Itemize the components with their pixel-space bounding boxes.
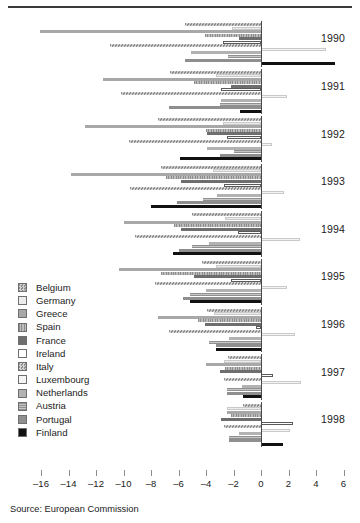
- zero-line-1994: [261, 211, 262, 257]
- bar-italy-1991: [121, 92, 261, 95]
- bar-belgium-1994: [192, 213, 261, 216]
- legend-item-portugal: Portugal: [18, 413, 138, 426]
- zero-line-1996: [261, 307, 262, 353]
- x-tick-label-6: 6: [341, 478, 346, 489]
- legend-swatch-belgium: [18, 283, 27, 292]
- bar-austria-1991: [220, 103, 261, 106]
- bar-netherlands-1993: [217, 194, 261, 197]
- bar-ireland-1990: [223, 41, 262, 44]
- legend-label-belgium: Belgium: [36, 283, 71, 293]
- bar-greece-1990: [40, 30, 261, 33]
- bar-italy-1997: [224, 378, 261, 381]
- legend-label-luxembourg: Luxembourg: [36, 375, 89, 385]
- bar-france-1996: [205, 323, 261, 326]
- bar-belgium-1990: [185, 23, 261, 26]
- bar-belgium-1996: [207, 309, 261, 312]
- legend-swatch-netherlands: [18, 389, 27, 398]
- legend-swatch-germany: [18, 296, 27, 305]
- x-tick-label--4: –4: [201, 478, 212, 489]
- bar-luxembourg-1997: [261, 381, 301, 384]
- legend-item-spain: Spain: [18, 321, 138, 334]
- legend-label-portugal: Portugal: [36, 415, 72, 425]
- bar-germany-1997: [224, 360, 261, 363]
- bar-ireland-1997: [261, 374, 273, 377]
- year-label-1993: 1993: [321, 175, 345, 187]
- bar-france-1994: [181, 228, 261, 231]
- legend-swatch-greece: [18, 309, 27, 318]
- x-tick-label--10: –10: [116, 478, 132, 489]
- legend-item-italy: Italy: [18, 360, 138, 373]
- bar-luxembourg-1995: [261, 286, 287, 289]
- bar-italy-1994: [135, 235, 262, 238]
- bar-germany-1998: [227, 407, 261, 410]
- chart-legend: BelgiumGermanyGreeceSpainFranceIrelandIt…: [18, 281, 138, 439]
- zero-line-1995: [261, 259, 262, 305]
- legend-item-ireland: Ireland: [18, 347, 138, 360]
- legend-swatch-spain: [18, 323, 27, 332]
- bar-luxembourg-1993: [261, 191, 284, 194]
- legend-swatch-luxembourg: [18, 375, 27, 384]
- legend-item-germany: Germany: [18, 294, 138, 307]
- bar-austria-1997: [227, 388, 261, 391]
- legend-swatch-finland: [18, 428, 27, 437]
- legend-swatch-austria: [18, 402, 27, 411]
- legend-label-spain: Spain: [36, 322, 61, 332]
- bar-france-1990: [239, 37, 261, 40]
- legend-label-greece: Greece: [36, 309, 67, 319]
- bar-ireland-1992: [227, 136, 261, 139]
- bar-portugal-1994: [179, 249, 262, 252]
- x-axis: –16–14–12–10–8–6–4–20246: [0, 470, 360, 496]
- bar-belgium-1995: [202, 261, 261, 264]
- bar-portugal-1990: [185, 59, 261, 62]
- x-tick--2: [234, 470, 235, 476]
- x-tick-0: [261, 470, 262, 476]
- bar-germany-1996: [214, 312, 261, 315]
- legend-label-france: France: [36, 336, 66, 346]
- zero-line-1993: [261, 164, 262, 210]
- bar-ireland-1993: [224, 184, 261, 187]
- bar-austria-1995: [190, 293, 262, 296]
- bar-spain-1996: [198, 319, 261, 322]
- bar-italy-1995: [155, 282, 261, 285]
- year-label-1996: 1996: [321, 318, 345, 330]
- bar-netherlands-1995: [206, 289, 261, 292]
- x-tick--12: [96, 470, 97, 476]
- bar-netherlands-1998: [239, 432, 261, 435]
- bar-greece-1996: [158, 316, 261, 319]
- bar-austria-1996: [209, 341, 261, 344]
- bar-finland-1992: [180, 157, 261, 160]
- bar-greece-1991: [103, 78, 261, 81]
- bar-spain-1995: [161, 272, 261, 275]
- bar-france-1997: [220, 370, 261, 373]
- x-tick-label--16: –16: [33, 478, 49, 489]
- bar-ireland-1994: [238, 231, 261, 234]
- x-tick-label--6: –6: [173, 478, 184, 489]
- legend-item-france: France: [18, 334, 138, 347]
- legend-item-greece: Greece: [18, 307, 138, 320]
- legend-swatch-ireland: [18, 349, 27, 358]
- bar-france-1991: [231, 85, 261, 88]
- x-tick-label--2: –2: [228, 478, 239, 489]
- bar-france-1998: [221, 418, 261, 421]
- bar-greece-1997: [206, 363, 261, 366]
- bar-germany-1993: [213, 169, 261, 172]
- bar-finland-1996: [216, 348, 261, 351]
- bar-finland-1995: [190, 300, 262, 303]
- legend-item-austria: Austria: [18, 400, 138, 413]
- year-label-1990: 1990: [321, 32, 345, 44]
- zero-line-1990: [261, 21, 262, 67]
- legend-item-luxembourg: Luxembourg: [18, 373, 138, 386]
- legend-swatch-italy: [18, 362, 27, 371]
- legend-label-ireland: Ireland: [36, 349, 65, 359]
- zero-line-1998: [261, 402, 262, 448]
- bar-netherlands-1997: [242, 385, 261, 388]
- x-tick-2: [289, 470, 290, 476]
- x-tick-label--12: –12: [88, 478, 104, 489]
- bar-italy-1993: [130, 187, 261, 190]
- bar-spain-1992: [206, 129, 261, 132]
- bar-austria-1993: [203, 198, 261, 201]
- bar-belgium-1997: [228, 356, 261, 359]
- bar-finland-1998: [261, 443, 283, 446]
- bar-luxembourg-1991: [261, 95, 287, 98]
- bar-portugal-1992: [220, 154, 261, 157]
